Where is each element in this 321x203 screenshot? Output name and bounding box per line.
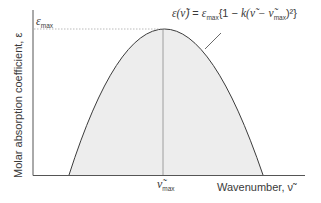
y-axis-label: Molar absorption coefficient, ε <box>12 33 24 178</box>
nu-max-label: ν̃max <box>157 177 175 192</box>
equation-pointer-line <box>205 33 221 49</box>
epsilon-max-label: εmax <box>36 14 54 29</box>
equation-label: ε(ν̃) = εmax{1 − k(ν̃ − ν̃max)²} <box>172 7 297 21</box>
absorption-band-diagram: Molar absorption coefficient, ε εmax ε(ν… <box>0 0 321 203</box>
x-axis-label: Wavenumber, ν̃ <box>217 181 297 193</box>
